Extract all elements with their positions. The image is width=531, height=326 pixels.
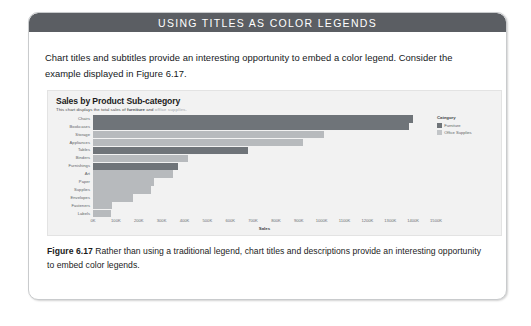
subtitle-furniture-word: furniture [127, 107, 145, 112]
chart-bar [93, 139, 303, 146]
chart-y-axis-label: Supplies [56, 188, 93, 192]
chart-bar-track [93, 123, 436, 130]
chart-bar-row: Bookcases [56, 123, 436, 130]
chart-legend-item: Furniture [437, 123, 493, 128]
chart-y-axis-label: Binders [56, 156, 93, 160]
figure-caption: Figure 6.17 Rather than using a traditio… [47, 245, 490, 272]
chart-y-axis-label: Envelopes [56, 196, 93, 200]
chart-bar-row: Labels [56, 210, 436, 217]
chart-bar-row: Storage [56, 131, 436, 138]
callout-header: USING TITLES AS COLOR LEGENDS [29, 13, 506, 32]
chart-subtitle: This chart displays the total sales of f… [56, 107, 187, 112]
subtitle-text-part-2: and [145, 107, 155, 112]
chart-bar-row: Chairs [56, 115, 436, 122]
chart-bar-track [93, 155, 436, 162]
chart-legend-title: Category [437, 115, 493, 120]
chart-figure: Sales by Product Sub-category This chart… [47, 90, 502, 236]
chart-y-axis-label: Art [56, 172, 93, 176]
chart-x-tick-label: 1000K [316, 218, 328, 223]
chart-bar [93, 178, 154, 185]
chart-y-axis-label: Storage [56, 133, 93, 137]
chart-x-axis-title: Sales [56, 226, 436, 231]
chart-x-tick-label: 100K [111, 218, 121, 223]
callout-body: Chart titles and subtitles provide an in… [29, 32, 506, 272]
chart-bar [93, 131, 324, 138]
chart-bar [93, 155, 188, 162]
chart-bar-track [93, 210, 436, 217]
chart-bar-track [93, 202, 436, 209]
chart-y-axis-label: Tables [56, 148, 93, 152]
chart-bar-track [93, 139, 436, 146]
chart-x-tick-label: 800K [271, 218, 281, 223]
chart-bar-track [93, 186, 436, 193]
chart-y-axis-label: Labels [56, 212, 93, 216]
chart-bar [93, 170, 173, 177]
chart-bar [93, 210, 111, 217]
chart-x-tick-label: 1200K [361, 218, 373, 223]
chart-bar-row: Binders [56, 155, 436, 162]
chart-bar-row: Tables [56, 147, 436, 154]
chart-bar-track [93, 131, 436, 138]
subtitle-text-part-0: This chart displays the total sales of [56, 107, 127, 112]
page-root: USING TITLES AS COLOR LEGENDS Chart titl… [0, 0, 531, 326]
chart-y-axis-label: Appliances [56, 141, 93, 145]
chart-bar-track [93, 147, 436, 154]
chart-x-tick-label: 0K [90, 218, 95, 223]
chart-bar-row: Art [56, 170, 436, 177]
chart-legend: Category FurnitureOffice Supplies [437, 115, 493, 137]
chart-x-axis-ticks: 0K100K200K300K400K500K600K700K800K900K10… [93, 218, 436, 226]
chart-y-axis-label: Bookcases [56, 125, 93, 129]
chart-bar [93, 202, 112, 209]
chart-bar-row: Appliances [56, 139, 436, 146]
chart-title: Sales by Product Sub-category [56, 96, 180, 106]
chart-bar-track [93, 170, 436, 177]
chart-bar [93, 115, 413, 122]
chart-y-axis-label: Paper [56, 180, 93, 184]
chart-legend-item: Office Supplies [437, 130, 493, 135]
callout-box: USING TITLES AS COLOR LEGENDS Chart titl… [28, 12, 507, 300]
chart-bar [93, 147, 248, 154]
chart-x-tick-label: 400K [180, 218, 190, 223]
chart-bar-track [93, 115, 436, 122]
chart-x-axis-title-label: Sales [259, 226, 270, 231]
chart-bar-row: Paper [56, 178, 436, 185]
intro-paragraph: Chart titles and subtitles provide an in… [45, 50, 490, 80]
chart-x-axis: 0K100K200K300K400K500K600K700K800K900K10… [56, 218, 436, 226]
chart-legend-label: Office Supplies [444, 130, 471, 135]
chart-x-tick-label: 200K [134, 218, 144, 223]
figure-caption-text: Rather than using a traditional legend, … [47, 246, 481, 269]
chart-legend-items: FurnitureOffice Supplies [437, 123, 493, 135]
chart-bar [93, 123, 409, 130]
chart-legend-label: Furniture [444, 123, 460, 128]
chart-plot-area: ChairsBookcasesStorageAppliancesTablesBi… [56, 115, 436, 219]
chart-x-tick-label: 1300K [384, 218, 396, 223]
subtitle-text-part-4: . [186, 107, 187, 112]
chart-x-tick-label: 500K [203, 218, 213, 223]
chart-bar-track [93, 194, 436, 201]
chart-bar-row: Envelopes [56, 194, 436, 201]
chart-y-axis-label: Furnishings [56, 164, 93, 168]
chart-x-tick-label: 900K [294, 218, 304, 223]
chart-bar-track [93, 163, 436, 170]
chart-bar [93, 163, 178, 170]
chart-x-tick-label: 1100K [339, 218, 351, 223]
chart-y-axis-label: Fasteners [56, 204, 93, 208]
figure-caption-label: Figure 6.17 [47, 246, 93, 256]
chart-x-tick-label: 600K [225, 218, 235, 223]
legend-swatch-icon [437, 123, 442, 128]
callout-header-title: USING TITLES AS COLOR LEGENDS [158, 17, 377, 29]
chart-bar [93, 194, 133, 201]
chart-x-tick-label: 300K [157, 218, 167, 223]
chart-x-tick-label: 700K [248, 218, 258, 223]
chart-bar-row: Furnishings [56, 163, 436, 170]
chart-y-axis-label: Chairs [56, 117, 93, 121]
chart-bar-row: Fasteners [56, 202, 436, 209]
subtitle-office-supplies-word: office supplies [155, 107, 186, 112]
chart-bar-row: Supplies [56, 186, 436, 193]
chart-bar [93, 186, 151, 193]
chart-x-tick-label: 1500K [430, 218, 442, 223]
chart-x-tick-label: 1400K [407, 218, 419, 223]
chart-bar-track [93, 178, 436, 185]
legend-swatch-icon [437, 130, 442, 135]
